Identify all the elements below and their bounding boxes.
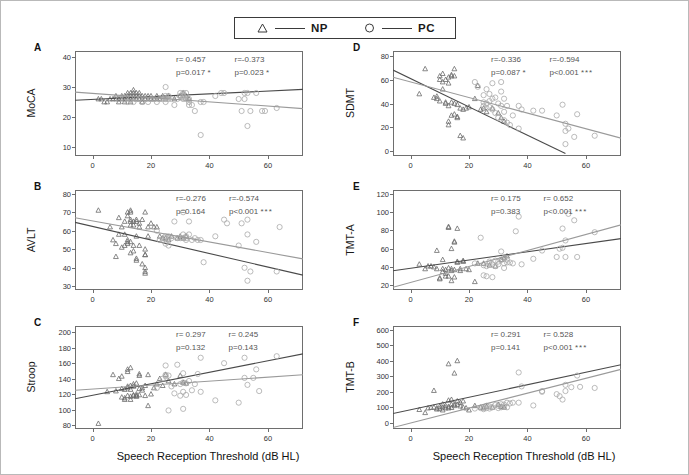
xtick-mark xyxy=(527,429,528,432)
ytick-label: 0 xyxy=(365,418,389,427)
stat-p-pc: p<0.001 *** xyxy=(543,342,589,355)
data-point xyxy=(510,400,515,405)
fit-line-pc xyxy=(393,369,621,427)
panel-f: FTMT-B01002003004005006000204060r= 0.291… xyxy=(1,1,689,475)
yaxis-label-f: TMT-B xyxy=(344,361,356,393)
data-point xyxy=(516,370,521,375)
stat-r-np: r= 0.291 xyxy=(491,329,543,342)
data-point xyxy=(560,397,565,402)
ytick-label: 500 xyxy=(365,341,389,350)
xtick-mark xyxy=(586,429,587,432)
data-point xyxy=(531,403,536,408)
xaxis-title-left: Speech Reception Threshold (dB HL) xyxy=(117,450,300,462)
ytick-label: 400 xyxy=(365,356,389,365)
xaxis-title-right: Speech Reception Threshold (dB HL) xyxy=(433,450,616,462)
stat-p-np: p=0.141 xyxy=(491,342,543,355)
stats-annotation-f: r= 0.291r= 0.528p=0.141 p<0.001 *** xyxy=(491,329,588,355)
ytick-label: 300 xyxy=(365,372,389,381)
data-point xyxy=(592,385,597,390)
ytick-label: 200 xyxy=(365,387,389,396)
stat-r-pc: r= 0.528 xyxy=(543,329,589,342)
xtick-mark xyxy=(411,429,412,432)
data-point xyxy=(563,388,568,393)
data-point xyxy=(432,388,437,392)
ytick-label: 100 xyxy=(365,403,389,412)
figure-container: NP PC AMoCA102030400204060r= 0.457r=-0.3… xyxy=(0,0,689,475)
xtick-mark xyxy=(469,429,470,432)
data-point xyxy=(446,361,451,365)
panel-letter-f: F xyxy=(353,317,359,328)
data-point xyxy=(452,371,457,375)
ytick-label: 600 xyxy=(365,325,389,334)
xtick-label: 60 xyxy=(582,434,590,443)
data-point xyxy=(569,385,574,390)
xtick-label: 20 xyxy=(465,434,473,443)
data-point xyxy=(516,400,521,405)
xtick-label: 40 xyxy=(523,434,531,443)
data-point xyxy=(455,358,460,362)
xtick-label: 0 xyxy=(408,434,412,443)
data-point xyxy=(423,410,428,414)
data-point xyxy=(577,384,582,389)
